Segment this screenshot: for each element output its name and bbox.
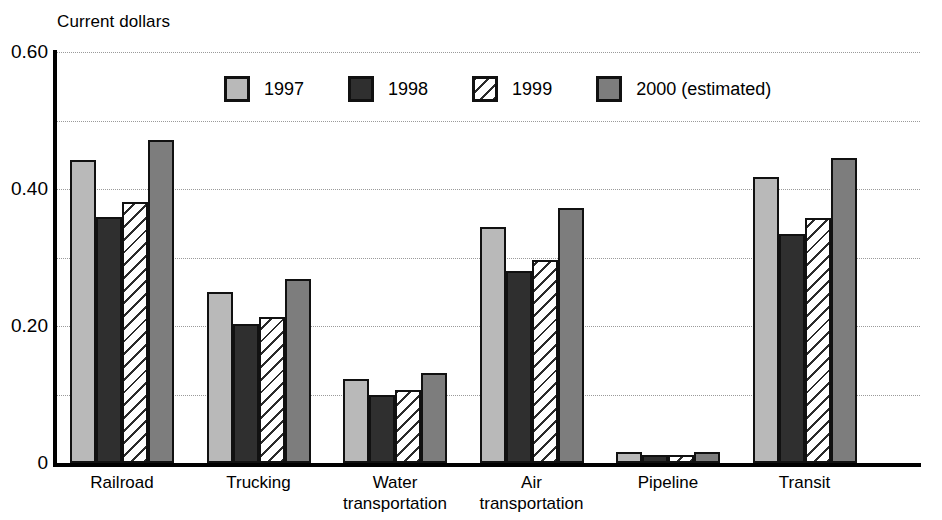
legend-item[interactable]: 1999: [472, 76, 596, 102]
bar: [421, 373, 447, 463]
bar: [96, 217, 122, 463]
y-axis-tick-label: 0: [37, 452, 48, 474]
y-axis-line: [53, 50, 57, 465]
bar: [779, 234, 805, 463]
legend-swatch-icon: [472, 76, 498, 102]
legend-label: 1997: [264, 79, 304, 100]
bar: [369, 395, 395, 463]
bar: [805, 218, 831, 463]
legend-item[interactable]: 2000 (estimated): [596, 76, 771, 102]
bar: [70, 160, 96, 463]
bar: [616, 452, 642, 463]
legend: 1997199819992000 (estimated): [224, 76, 771, 102]
bar: [506, 271, 532, 463]
bar: [831, 158, 857, 464]
bar: [694, 452, 720, 463]
x-axis-line: [53, 463, 921, 467]
bar: [207, 292, 233, 463]
bar: [148, 140, 174, 463]
legend-item[interactable]: 1998: [348, 76, 472, 102]
bar-chart: Current dollars 00.200.400.60 1997199819…: [0, 0, 942, 520]
bar: [395, 390, 421, 463]
bar: [259, 317, 285, 463]
bar: [532, 260, 558, 463]
legend-swatch-icon: [596, 76, 622, 102]
bar: [668, 455, 694, 463]
legend-label: 2000 (estimated): [636, 79, 771, 100]
bar: [753, 177, 779, 463]
y-axis-tick-label: 0.40: [11, 178, 48, 200]
plot-area: [53, 52, 920, 463]
y-axis-tick-label: 0.60: [11, 41, 48, 63]
bar: [480, 227, 506, 463]
y-axis-tick-label: 0.20: [11, 315, 48, 337]
bar: [285, 279, 311, 463]
gridline-major: [53, 189, 920, 190]
bar: [642, 455, 668, 463]
y-axis-title: Current dollars: [57, 12, 170, 32]
bar: [122, 202, 148, 463]
legend-label: 1998: [388, 79, 428, 100]
bar: [233, 324, 259, 463]
legend-item[interactable]: 1997: [224, 76, 348, 102]
bar: [343, 379, 369, 463]
legend-label: 1999: [512, 79, 552, 100]
x-axis-category-label: Transit: [715, 472, 895, 493]
gridline-minor: [53, 121, 920, 122]
gridline-major: [53, 52, 920, 53]
legend-swatch-icon: [224, 76, 250, 102]
legend-swatch-icon: [348, 76, 374, 102]
bar: [558, 208, 584, 463]
y-axis-tick-labels: 00.200.400.60: [0, 52, 48, 463]
